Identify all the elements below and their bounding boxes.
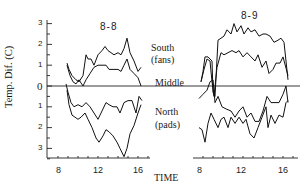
label-south-fans: (fans) [151,55,174,65]
y-tick-3-down: 3 [38,143,42,153]
y-tick-1-down: 1 [38,101,42,111]
x-axis-label: TIME [154,173,178,183]
y-tick-0: 0 [37,81,43,91]
y-tick-2-down: 2 [38,122,42,132]
x-tick-16-right: 16 [278,165,288,175]
label-north-pads: (pads) [155,120,180,130]
label-south: South [151,43,174,53]
x-tick-8-left: 8 [56,165,61,175]
label-north: North [155,107,178,117]
series-line [67,38,141,82]
y-tick-1-up: 1 [38,60,42,70]
x-tick-12-left: 12 [93,165,103,175]
chart-canvas [0,0,306,186]
axes [47,20,300,159]
series-line [201,24,288,97]
y-tick-3-up: 3 [38,18,42,28]
y-tick-2-up: 2 [38,39,42,49]
x-tick-12-right: 12 [236,165,246,175]
label-middle: Middle [155,78,184,88]
series-line [66,84,142,119]
x-tick-16-left: 16 [133,165,143,175]
panel-title-8-9: 8-9 [241,11,258,21]
panel-title-8-8: 8-8 [100,22,117,32]
series-line [67,59,141,86]
x-tick-8-right: 8 [197,165,202,175]
y-axis-label: Temp. Dif. (C) [3,46,14,108]
data-lines [66,24,288,157]
